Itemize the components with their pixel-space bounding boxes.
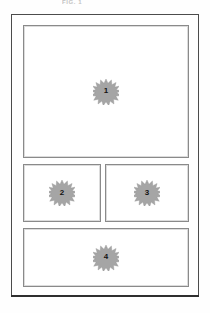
panel-label-1: 1 xyxy=(93,79,119,105)
scanned-diagram-page: FIG. 1 1 2 3 xyxy=(0,0,210,313)
panel-label-4: 4 xyxy=(93,245,119,271)
panel-1[interactable]: 1 xyxy=(23,25,189,158)
starburst-marker-2: 2 xyxy=(49,180,75,206)
drawing-sheet-border: 1 2 3 4 xyxy=(11,14,199,297)
panel-2[interactable]: 2 xyxy=(23,164,101,222)
panel-label-2: 2 xyxy=(49,180,75,206)
starburst-marker-1: 1 xyxy=(93,79,119,105)
panel-4[interactable]: 4 xyxy=(23,228,189,287)
panel-3[interactable]: 3 xyxy=(105,164,189,222)
starburst-marker-3: 3 xyxy=(134,180,160,206)
starburst-marker-4: 4 xyxy=(93,245,119,271)
panel-label-3: 3 xyxy=(134,180,160,206)
clipped-header-text: FIG. 1 xyxy=(62,0,146,5)
